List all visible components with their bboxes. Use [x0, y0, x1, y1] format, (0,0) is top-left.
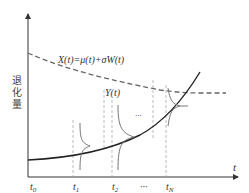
threshold-label: Y(t) [105, 87, 121, 99]
y-axis-label: 退 化 量 [12, 75, 22, 110]
ellipsis-mid: ··· [135, 110, 142, 120]
svg-text:化: 化 [12, 86, 22, 98]
process-curve [28, 72, 200, 160]
tick-label: t1 [73, 181, 79, 193]
x-axis-label: t [233, 161, 237, 173]
pdf-t2 [118, 105, 134, 170]
svg-text:退: 退 [12, 75, 22, 86]
svg-text:量: 量 [12, 99, 22, 110]
degradation-diagram: X(t)=μ(t)+σW(t) Y(t) t ··· 退 化 量 t0t1t2·… [0, 0, 249, 193]
tick-label: tN [166, 181, 174, 193]
tick-label: ··· [140, 181, 148, 192]
pdf-t1 [80, 123, 90, 170]
tick-label: t0 [30, 181, 37, 193]
process-label: X(t)=μ(t)+σW(t) [57, 54, 125, 66]
tick-label: t2 [112, 181, 119, 193]
